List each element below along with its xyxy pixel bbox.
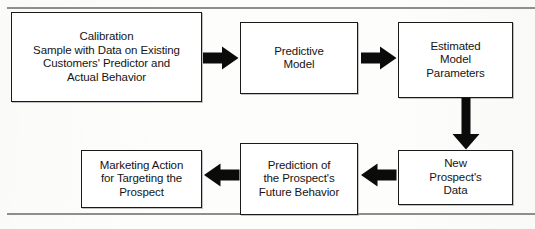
node-calibration-sample: Calibration Sample with Data on Existing…: [11, 12, 202, 102]
node-new-prospects-data-label: New Prospect's Data: [429, 157, 481, 198]
top-divider-rule: [7, 7, 535, 9]
flowchart-figure: Calibration Sample with Data on Existing…: [0, 0, 535, 229]
arrow-prediction-to-marketing-action: [204, 163, 240, 187]
node-calibration-sample-label: Calibration Sample with Data on Existing…: [33, 30, 180, 84]
node-prediction-of-future-behavior: Prediction of the Prospect's Future Beha…: [240, 143, 358, 215]
node-predictive-model: Predictive Model: [240, 22, 358, 94]
arrow-new-prospects-data-to-prediction: [361, 163, 397, 187]
node-estimated-model-parameters: Estimated Model Parameters: [398, 22, 513, 98]
arrow-estimated-parameters-to-new-prospects-data: [452, 98, 480, 150]
node-estimated-model-parameters-label: Estimated Model Parameters: [426, 40, 484, 81]
node-marketing-action-label: Marketing Action for Targeting the Prosp…: [100, 159, 183, 200]
node-prediction-of-future-behavior-label: Prediction of the Prospect's Future Beha…: [259, 159, 339, 200]
arrow-predictive-model-to-estimated-parameters: [361, 46, 397, 70]
node-new-prospects-data: New Prospect's Data: [398, 150, 513, 205]
node-marketing-action: Marketing Action for Targeting the Prosp…: [81, 150, 202, 208]
node-predictive-model-label: Predictive Model: [274, 45, 324, 72]
arrow-calibration-to-predictive-model: [203, 46, 239, 70]
